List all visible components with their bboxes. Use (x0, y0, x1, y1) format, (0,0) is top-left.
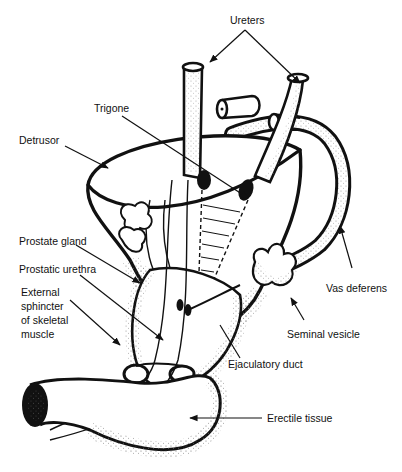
label-ejaculatory-duct: Ejaculatory duct (228, 358, 303, 370)
arrow-detrusor (65, 146, 108, 168)
arrow-seminal-vesicle (291, 298, 304, 320)
seminal-vesicle-right (253, 244, 296, 285)
label-vas-deferens: Vas deferens (326, 282, 387, 294)
anatomy-diagram: Ureters Trigone Detrusor Prostate gland … (0, 0, 402, 472)
arrow-vas-deferens (340, 226, 352, 268)
label-external-sphincter-1: External (21, 286, 60, 298)
ejaculatory-duct-opening-left (177, 299, 184, 311)
label-prostatic-urethra: Prostatic urethra (19, 263, 96, 275)
label-prostate-gland: Prostate gland (19, 235, 87, 247)
arrow-external-sphincter (70, 300, 120, 345)
arrow-ureters-left (210, 30, 245, 62)
vas-deferens-left-stub (217, 96, 260, 118)
label-external-sphincter-3: of skeletal (21, 314, 68, 326)
label-external-sphincter-4: muscle (21, 328, 54, 340)
label-external-sphincter-2: sphincter (21, 300, 64, 312)
label-erectile-tissue: Erectile tissue (267, 412, 333, 424)
label-seminal-vesicle: Seminal vesicle (287, 328, 360, 340)
label-detrusor: Detrusor (19, 134, 60, 146)
erectile-tissue (22, 376, 220, 450)
arrow-ureters-right (245, 30, 300, 83)
label-ureters: Ureters (230, 14, 264, 26)
ureter-left (183, 63, 203, 178)
label-trigone: Trigone (94, 102, 129, 114)
